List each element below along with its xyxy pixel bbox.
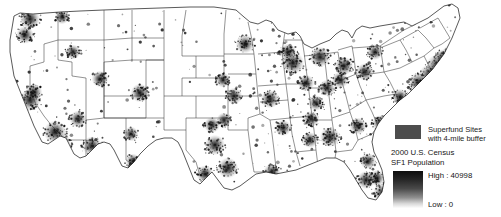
census-label-block: 2000 U.S. Census SF1 Population <box>391 148 454 168</box>
ramp-low-label: Low : 0 <box>428 200 453 209</box>
population-color-ramp <box>393 171 423 208</box>
superfund-label-line1: Superfund Sites <box>428 125 486 134</box>
superfund-label-block: Superfund Sites with 4-mile buffer <box>428 125 486 143</box>
superfund-label-line2: with 4-mile buffer <box>428 134 486 143</box>
census-label-line1: 2000 U.S. Census <box>391 148 454 158</box>
legend-superfund-entry: Superfund Sites with 4-mile buffer <box>395 125 486 143</box>
map-screenshot: Superfund Sites with 4-mile buffer 2000 … <box>0 0 501 217</box>
census-label-line2: SF1 Population <box>391 158 454 168</box>
superfund-swatch <box>395 125 421 139</box>
ramp-high-label: High : 40998 <box>428 171 472 180</box>
map-legend: Superfund Sites with 4-mile buffer 2000 … <box>390 121 501 217</box>
